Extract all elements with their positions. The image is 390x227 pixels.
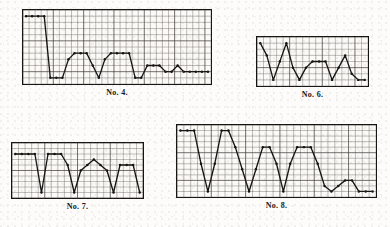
data-point xyxy=(104,58,106,60)
data-point xyxy=(200,163,202,165)
data-point xyxy=(310,146,312,148)
data-point xyxy=(179,129,181,131)
chart-canvas-no4 xyxy=(23,10,211,84)
data-point xyxy=(176,64,178,66)
data-point xyxy=(31,15,33,17)
chart-caption-no8: No. 8. xyxy=(176,202,377,210)
data-point xyxy=(14,153,16,155)
data-point xyxy=(331,79,333,81)
chart-plot-no8 xyxy=(176,124,377,198)
grid-lines xyxy=(12,143,143,198)
data-point xyxy=(53,153,55,155)
data-point xyxy=(323,185,325,187)
data-point xyxy=(110,52,112,54)
data-point xyxy=(66,164,68,166)
data-point xyxy=(285,42,287,44)
data-point xyxy=(186,129,188,131)
grid-lines xyxy=(23,10,211,84)
data-point xyxy=(282,190,284,192)
data-point xyxy=(40,191,42,193)
data-point xyxy=(86,164,88,166)
data-point xyxy=(344,179,346,181)
data-point xyxy=(49,77,51,79)
chart-canvas-no8 xyxy=(177,125,376,197)
data-point xyxy=(112,191,114,193)
data-point xyxy=(125,164,127,166)
data-point xyxy=(106,169,108,171)
data-point xyxy=(371,190,373,192)
data-point xyxy=(193,129,195,131)
data-point xyxy=(182,70,184,72)
data-point xyxy=(262,146,264,148)
data-point xyxy=(43,15,45,17)
data-point xyxy=(344,54,346,56)
data-point xyxy=(357,79,359,81)
data-point xyxy=(73,52,75,54)
data-point xyxy=(25,15,27,17)
data-point xyxy=(289,163,291,165)
data-point xyxy=(311,60,313,62)
data-point xyxy=(275,163,277,165)
data-point xyxy=(337,185,339,187)
chart-block-no4: No. 4. xyxy=(22,9,212,97)
data-point xyxy=(170,70,172,72)
data-point xyxy=(241,168,243,170)
data-point xyxy=(259,42,261,44)
data-point xyxy=(364,190,366,192)
data-point xyxy=(116,52,118,54)
data-point xyxy=(21,153,23,155)
data-point xyxy=(92,64,94,66)
data-point xyxy=(195,70,197,72)
chart-plot-no4 xyxy=(22,9,212,85)
data-point xyxy=(255,168,257,170)
data-point xyxy=(201,70,203,72)
data-point xyxy=(292,66,294,68)
data-point xyxy=(318,60,320,62)
figure-sheet: No. 4. No. 6. No. 7. No. 8. xyxy=(0,0,390,227)
data-point xyxy=(55,77,57,79)
data-point xyxy=(330,190,332,192)
data-point xyxy=(351,179,353,181)
chart-block-no7: No. 7. xyxy=(11,142,144,211)
chart-block-no6: No. 6. xyxy=(256,36,369,99)
chart-canvas-no6 xyxy=(257,37,368,86)
data-point xyxy=(132,164,134,166)
data-point xyxy=(146,64,148,66)
data-point xyxy=(234,146,236,148)
data-point xyxy=(214,163,216,165)
data-point xyxy=(152,64,154,66)
data-point xyxy=(79,52,81,54)
data-point xyxy=(93,158,95,160)
data-point xyxy=(268,146,270,148)
chart-plot-no7 xyxy=(11,142,144,199)
data-point xyxy=(73,191,75,193)
data-point xyxy=(350,73,352,75)
chart-block-no8: No. 8. xyxy=(176,124,377,210)
data-point xyxy=(98,77,100,79)
data-point xyxy=(85,52,87,54)
data-point xyxy=(207,190,209,192)
data-point xyxy=(128,52,130,54)
data-point xyxy=(364,79,366,81)
data-point xyxy=(119,164,121,166)
data-point xyxy=(279,60,281,62)
data-point xyxy=(37,15,39,17)
chart-caption-no4: No. 4. xyxy=(22,89,212,97)
data-point xyxy=(358,190,360,192)
data-point xyxy=(27,153,29,155)
chart-plot-no6 xyxy=(256,36,369,87)
data-point xyxy=(138,191,140,193)
data-point xyxy=(140,77,142,79)
data-point xyxy=(134,77,136,79)
data-point xyxy=(248,190,250,192)
chart-caption-no6: No. 6. xyxy=(256,91,369,99)
series-line xyxy=(180,131,372,192)
data-point xyxy=(296,146,298,148)
data-point xyxy=(189,70,191,72)
series-markers xyxy=(179,129,374,192)
data-point xyxy=(303,146,305,148)
data-point xyxy=(60,153,62,155)
data-point xyxy=(99,164,101,166)
data-point xyxy=(61,77,63,79)
data-point xyxy=(158,64,160,66)
